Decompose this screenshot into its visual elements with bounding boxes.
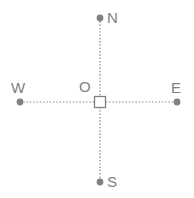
east-label: E (171, 80, 181, 95)
north-label: N (107, 10, 118, 25)
west-label: W (11, 80, 25, 95)
compass-diagram: N S W E O (0, 0, 194, 198)
origin-label: O (79, 79, 91, 94)
south-point-marker (97, 179, 104, 186)
east-point-marker (174, 99, 181, 106)
origin-square-marker (95, 97, 106, 108)
north-point-marker (97, 15, 104, 22)
west-point-marker (17, 99, 24, 106)
south-label: S (107, 174, 117, 189)
compass-diagram-canvas (0, 0, 194, 198)
